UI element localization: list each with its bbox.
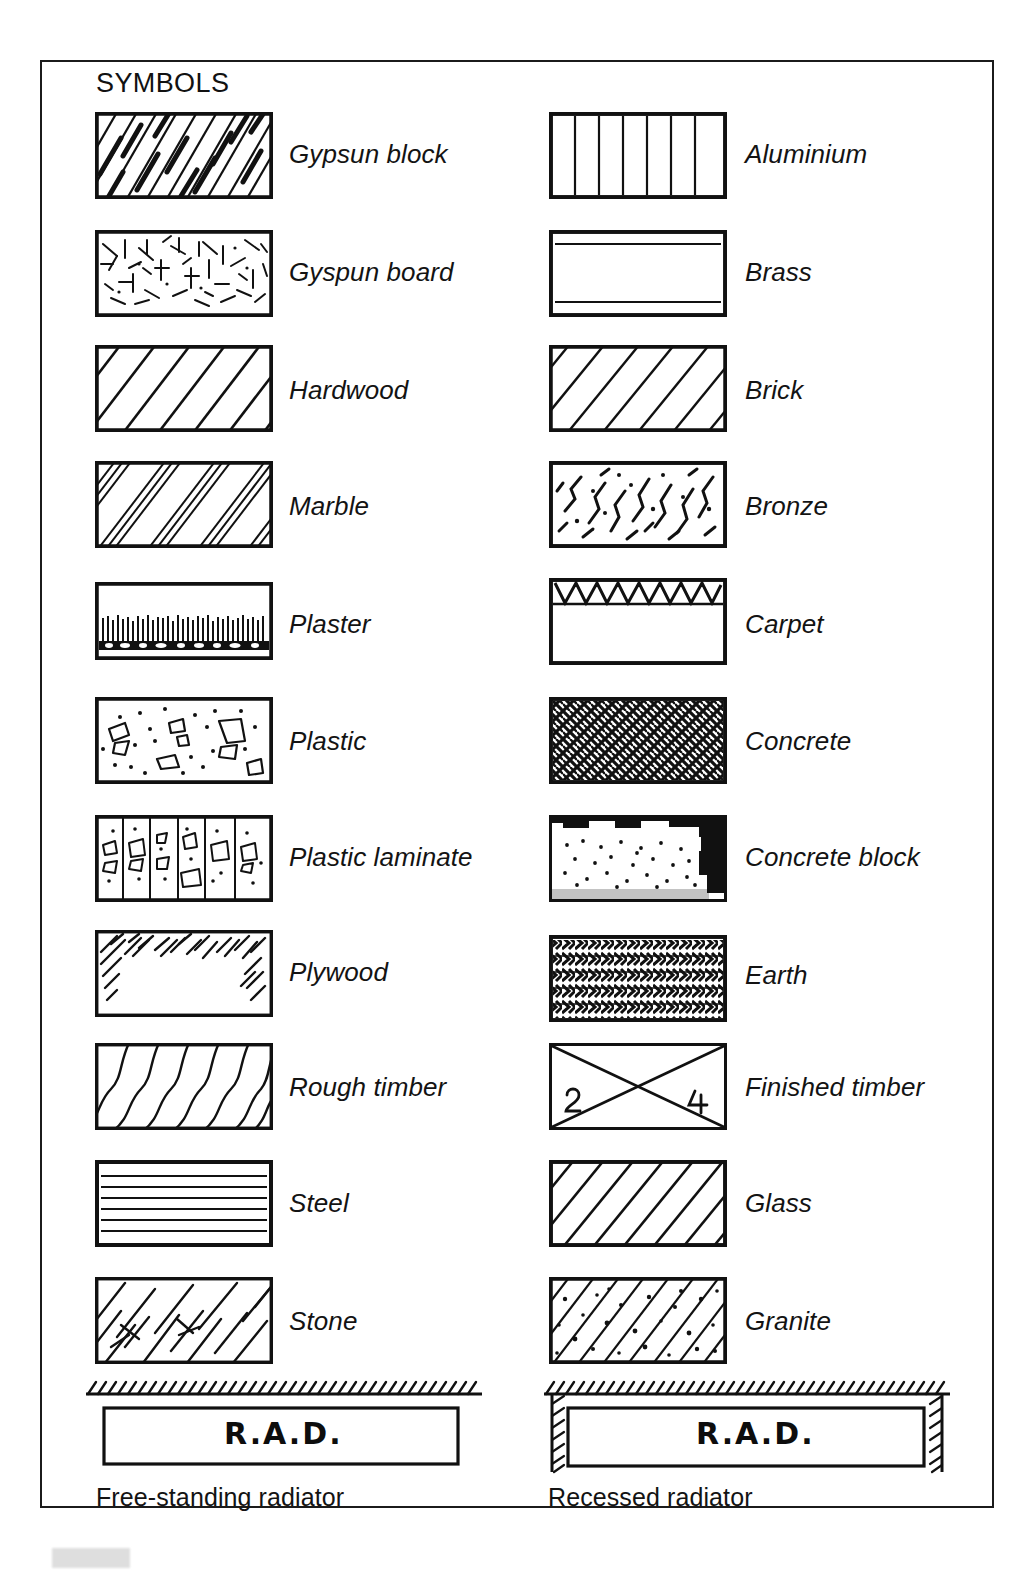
symbol-swatch-gypsun-block <box>95 112 273 199</box>
symbol-label-finished-timber: Finished timber <box>745 1072 924 1103</box>
free-standing-radiator-diagram: R.A.D. <box>82 1374 492 1488</box>
symbol-label-steel: Steel <box>289 1188 349 1219</box>
symbol-label-hardwood: Hardwood <box>289 375 408 406</box>
symbol-label-rough-timber: Rough timber <box>289 1072 446 1103</box>
symbol-swatch-steel <box>95 1160 273 1247</box>
symbol-label-plywood: Plywood <box>289 957 388 988</box>
scan-artifact <box>52 1548 130 1568</box>
free-standing-radiator-caption: Free-standing radiator <box>96 1483 344 1512</box>
symbol-swatch-hardwood <box>95 345 273 432</box>
symbol-swatch-carpet <box>549 578 727 665</box>
symbol-label-concrete-block: Concrete block <box>745 842 920 873</box>
symbol-label-earth: Earth <box>745 960 808 991</box>
symbol-swatch-stone <box>95 1277 273 1364</box>
recessed-radiator-caption: Recessed radiator <box>548 1483 753 1512</box>
symbol-swatch-rough-timber <box>95 1043 273 1130</box>
symbol-label-bronze: Bronze <box>745 491 828 522</box>
symbol-swatch-concrete <box>549 697 727 784</box>
symbol-label-marble: Marble <box>289 491 369 522</box>
symbol-label-glass: Glass <box>745 1188 812 1219</box>
symbol-swatch-aluminium <box>549 112 727 199</box>
symbol-label-gyspun-board: Gyspun board <box>289 257 454 288</box>
symbol-label-brick: Brick <box>745 375 803 406</box>
recessed-radiator-box-label: R.A.D. <box>696 1416 815 1451</box>
symbol-swatch-concrete-block <box>549 815 727 902</box>
symbol-swatch-granite <box>549 1277 727 1364</box>
symbol-label-gypsun-block: Gypsun block <box>289 139 448 170</box>
symbol-swatch-gyspun-board <box>95 230 273 317</box>
symbol-swatch-plywood <box>95 930 273 1017</box>
page-title: SYMBOLS <box>96 68 229 99</box>
recessed-radiator-diagram: R.A.D. <box>538 1374 958 1488</box>
free-standing-radiator-box-label: R.A.D. <box>224 1416 343 1451</box>
symbol-label-carpet: Carpet <box>745 609 824 640</box>
symbol-label-plaster: Plaster <box>289 609 371 640</box>
symbol-swatch-finished-timber <box>549 1043 727 1130</box>
symbol-swatch-brick <box>549 345 727 432</box>
symbol-label-concrete: Concrete <box>745 726 851 757</box>
legend-page: SYMBOLS <box>0 0 1036 1582</box>
symbol-label-plastic-laminate: Plastic laminate <box>289 842 473 873</box>
symbol-label-plastic: Plastic <box>289 726 366 757</box>
symbol-label-stone: Stone <box>289 1306 357 1337</box>
symbol-swatch-glass <box>549 1160 727 1247</box>
symbol-swatch-earth <box>549 935 727 1022</box>
symbol-label-brass: Brass <box>745 257 812 288</box>
symbol-label-granite: Granite <box>745 1306 831 1337</box>
symbol-swatch-plastic-laminate <box>95 815 273 902</box>
symbol-swatch-plastic <box>95 697 273 784</box>
symbol-swatch-bronze <box>549 461 727 548</box>
symbol-label-aluminium: Aluminium <box>745 139 867 170</box>
symbol-swatch-brass <box>549 230 727 317</box>
symbol-swatch-marble <box>95 461 273 548</box>
symbol-swatch-plaster <box>95 582 273 660</box>
